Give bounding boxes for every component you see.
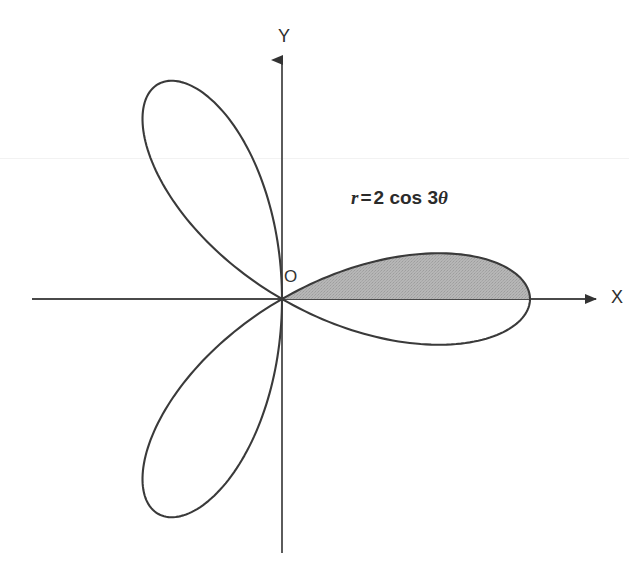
x-axis-label: X — [611, 288, 623, 306]
equation-angle-symbol: θ — [438, 187, 448, 208]
shaded-petal-region — [282, 253, 530, 299]
rose-curve-svg — [0, 0, 629, 566]
equation-multiple: 3 — [427, 187, 438, 208]
polar-rose-figure: Y X O r=2 cos 3θ — [0, 0, 629, 566]
equation-amplitude: 2 — [374, 187, 385, 208]
equation-operator: = — [358, 187, 373, 208]
axes-group — [32, 60, 596, 553]
equation-function: cos — [389, 187, 422, 208]
y-axis-label: Y — [278, 27, 290, 45]
equation-annotation: r=2 cos 3θ — [351, 188, 448, 209]
origin-label: O — [284, 268, 297, 285]
